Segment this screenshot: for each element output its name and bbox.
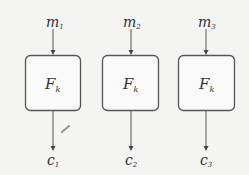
block-1: m1 Fk c1 [26,14,81,169]
input-label-3: m3 [198,14,216,31]
output-label-1: c1 [47,152,59,169]
arrowhead-out-2 [129,146,134,151]
output-label-3: c3 [200,152,213,169]
output-label-2: c2 [125,152,138,169]
encryption-diagram: m1 Fk c1 m2 Fk c2 m3 Fk c3 [0,0,249,175]
arrowhead-out-3 [204,146,209,151]
arrowhead-in-1 [51,50,56,55]
arrowhead-in-2 [129,50,134,55]
block-3: m3 Fk c3 [179,14,235,169]
stray-mark [62,126,69,132]
block-2: m2 Fk c2 [103,14,159,169]
arrowhead-out-1 [51,146,56,151]
input-label-2: m2 [123,14,141,31]
arrowhead-in-3 [204,50,209,55]
input-label-1: m1 [46,14,64,31]
